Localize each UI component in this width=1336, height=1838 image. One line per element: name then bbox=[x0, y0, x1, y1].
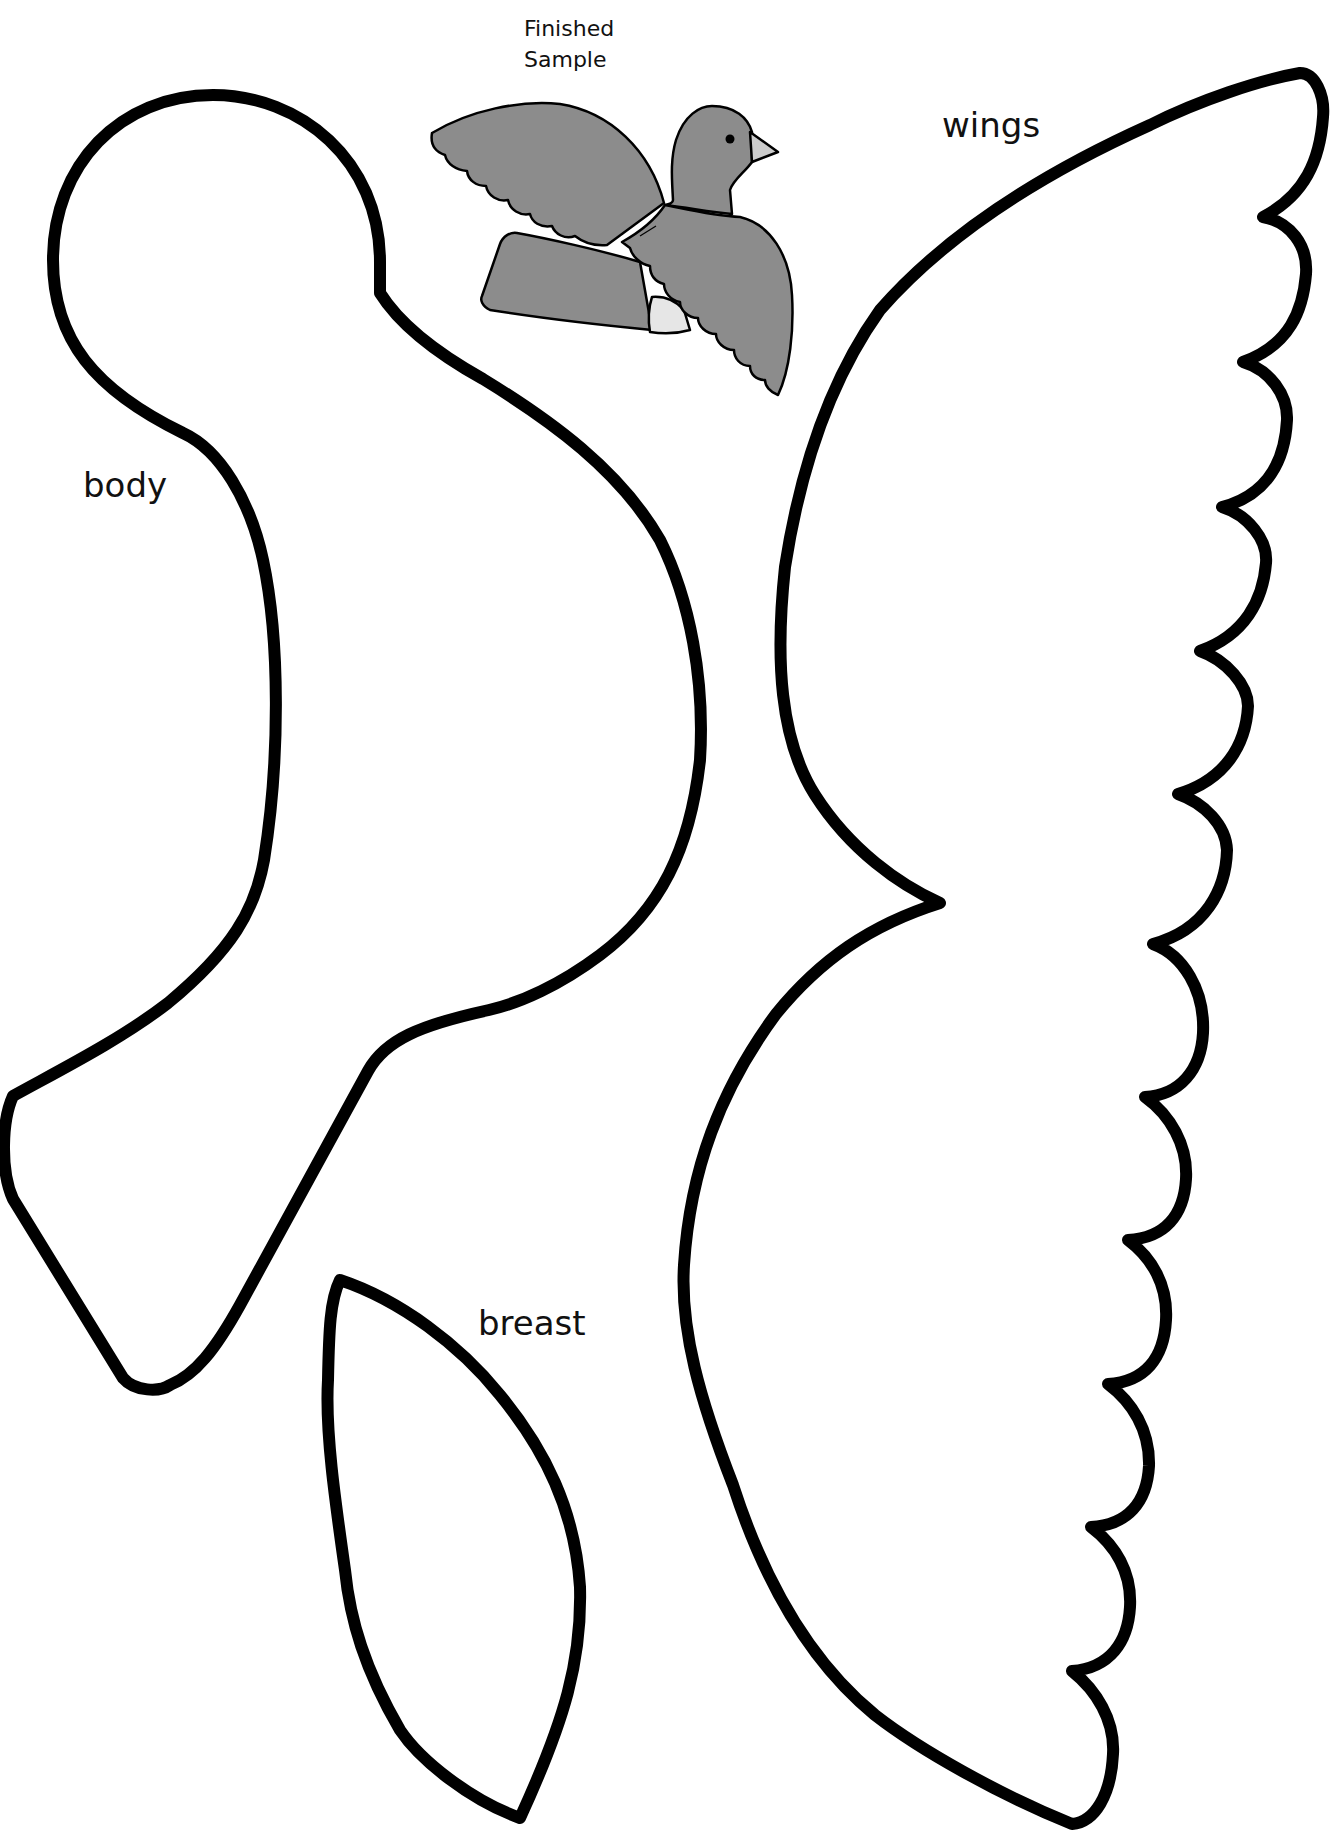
body-piece-label: body bbox=[83, 468, 167, 502]
template-drawing bbox=[0, 0, 1336, 1838]
sample-bird-tail bbox=[481, 233, 652, 330]
breast-piece-outline bbox=[327, 1280, 580, 1818]
finished-sample-line1: Finished bbox=[524, 13, 614, 44]
template-page: Finished Sample body wings breast bbox=[0, 0, 1336, 1838]
sample-bird-head bbox=[665, 106, 752, 214]
finished-sample-caption: Finished Sample bbox=[524, 13, 614, 75]
finished-sample-bird-illustration bbox=[432, 103, 793, 395]
sample-bird-beak bbox=[750, 132, 778, 162]
sample-bird-back-wing bbox=[432, 103, 664, 245]
wings-piece-label: wings bbox=[942, 108, 1040, 142]
breast-piece-label: breast bbox=[478, 1306, 586, 1340]
finished-sample-line2: Sample bbox=[524, 44, 614, 75]
sample-bird-eye bbox=[726, 135, 735, 144]
